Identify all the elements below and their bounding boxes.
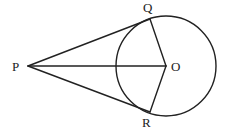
segment-pr <box>28 66 150 112</box>
label-r: R <box>142 115 151 130</box>
label-p: P <box>12 59 19 74</box>
label-q: Q <box>143 0 153 15</box>
radius-oq <box>150 19 166 66</box>
segment-pq <box>28 19 150 66</box>
tangent-circle-diagram: P O Q R <box>0 0 229 133</box>
label-o: O <box>171 59 180 74</box>
radius-or <box>150 66 166 112</box>
